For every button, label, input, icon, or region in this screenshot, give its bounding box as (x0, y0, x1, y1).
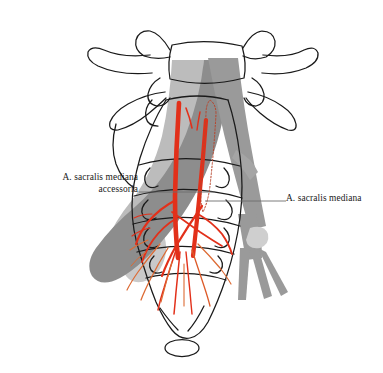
superior-articular-right (243, 31, 275, 59)
sacral-apex-2 (188, 306, 204, 331)
sacral-fine-branch-2 (174, 252, 180, 314)
right-iliac-node (246, 227, 268, 248)
sacral-fine-branch-8 (161, 262, 172, 302)
right-iliac-branch-a (238, 248, 250, 300)
sacral-fine-branch-3 (186, 252, 192, 314)
sacral-foramen-r2 (218, 200, 232, 220)
left-facet-detail (148, 78, 170, 106)
label-a-sacralis-mediana-accessoria: A. sacralis mediana accessoria (14, 172, 138, 195)
left-transverse-process-lower (110, 92, 166, 130)
sacral-foramen-r3 (215, 228, 229, 248)
sacral-foramen-r1 (216, 168, 229, 188)
right-transverse-process-lower (246, 92, 296, 130)
sacral-ridge-5 (146, 273, 226, 280)
label-a-sacralis-mediana: A. sacralis mediana (286, 193, 382, 205)
right-transverse-process-upper (262, 48, 318, 74)
superior-articular-left (136, 31, 170, 58)
sacral-fine-branch-4 (192, 250, 210, 306)
right-common-iliac-vessel (208, 58, 266, 230)
left-transverse-process-upper (88, 48, 152, 74)
coccyx (165, 340, 199, 357)
right-facet-detail (244, 78, 264, 106)
